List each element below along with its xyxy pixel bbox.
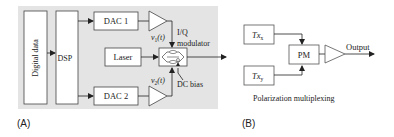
arrow-txy-to-pm: [274, 66, 302, 75]
polarization-caption: Polarization multiplexing: [253, 94, 335, 103]
panel-a-label: (A): [17, 118, 30, 129]
panel-b-label: (B): [242, 118, 255, 129]
digital-data-label: Digital data: [31, 39, 40, 77]
iq-modulator-icon: [159, 48, 187, 66]
output-amplifier-icon: [325, 45, 345, 63]
iq-modulator-label-line1: I/Q: [177, 28, 188, 37]
pm-label: PM: [298, 50, 311, 60]
output-label: Output: [346, 42, 370, 52]
v1-label: v1(t): [151, 33, 165, 43]
v2-label: v2(t): [151, 76, 165, 86]
dc-bias-label: DC bias: [177, 80, 203, 89]
dsp-label: DSP: [58, 54, 73, 63]
dac1-label: DAC 1: [104, 16, 128, 26]
diagram: Digital data DSP DAC 1 DAC 2 v1(t) v2(t)…: [0, 0, 394, 137]
iq-modulator-label-line2: modulator: [177, 39, 210, 48]
laser-label: Laser: [114, 52, 133, 62]
arrow-txx-to-pm: [274, 34, 302, 44]
dac2-label: DAC 2: [104, 91, 128, 101]
